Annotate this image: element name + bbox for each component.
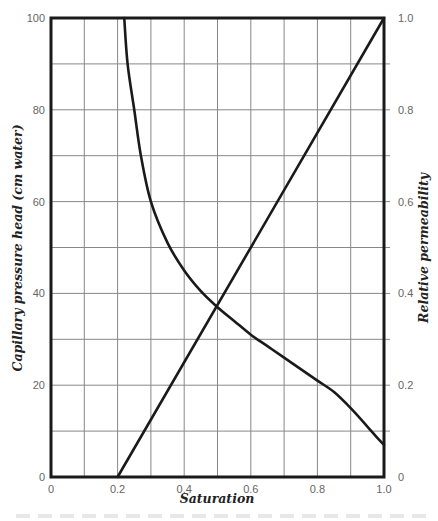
x-tick-label: 1.0 — [376, 483, 391, 495]
y2-tick-label: 0 — [398, 471, 404, 483]
y-tick-label: 80 — [33, 104, 45, 116]
y2-axis-ticks: 00.20.40.60.81.0 — [398, 12, 413, 483]
y-tick-label: 20 — [33, 379, 45, 391]
chart: 00.20.40.60.81.0 020406080100 00.20.40.6… — [0, 0, 438, 521]
x-axis-title: Saturation — [180, 491, 255, 506]
y-axis-title: Capillary pressure head (cm water) — [10, 124, 25, 371]
y2-tick-label: 1.0 — [398, 12, 413, 24]
grid-lines — [51, 18, 390, 477]
y-axis-ticks: 020406080100 — [27, 12, 45, 483]
y-tick-label: 40 — [33, 287, 45, 299]
y2-tick-label: 0.8 — [398, 104, 413, 116]
y2-axis-title: Relative permeability — [416, 172, 431, 324]
y2-tick-label: 0.2 — [398, 379, 413, 391]
capillary-pressure-curve — [124, 18, 384, 445]
x-tick-label: 0.2 — [110, 483, 125, 495]
y2-tick-label: 0.6 — [398, 196, 413, 208]
y-tick-label: 60 — [33, 196, 45, 208]
y-tick-label: 100 — [27, 12, 45, 24]
caption-fragment — [16, 514, 426, 518]
y2-tick-label: 0.4 — [398, 287, 413, 299]
x-tick-label: 0.8 — [310, 483, 325, 495]
y-tick-label: 0 — [39, 471, 45, 483]
x-tick-label: 0 — [48, 483, 54, 495]
